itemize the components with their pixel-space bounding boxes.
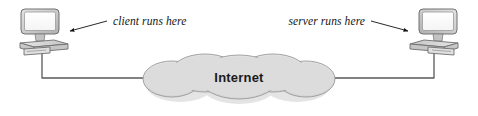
- diagram-canvas: Internet: [0, 0, 478, 116]
- server-monitor-stand: [433, 34, 443, 41]
- server-connection-line: [327, 50, 434, 78]
- server-annotation-arrow: [371, 21, 408, 31]
- client-computer-icon: [20, 9, 68, 55]
- client-connection-line: [42, 50, 151, 78]
- client-monitor-screen: [25, 12, 56, 31]
- client-annotation-arrow: [70, 21, 107, 31]
- network-diagram: Internet: [0, 0, 478, 116]
- server-annotation: server runs here: [288, 15, 408, 31]
- server-annotation-label: server runs here: [288, 15, 365, 27]
- client-monitor-stand: [35, 34, 45, 41]
- client-annotation: client runs here: [70, 15, 186, 31]
- client-annotation-label: client runs here: [113, 15, 186, 27]
- server-monitor-screen: [423, 12, 454, 31]
- internet-cloud: Internet: [143, 54, 335, 104]
- cloud-label: Internet: [214, 70, 264, 85]
- server-computer-icon: [410, 9, 458, 55]
